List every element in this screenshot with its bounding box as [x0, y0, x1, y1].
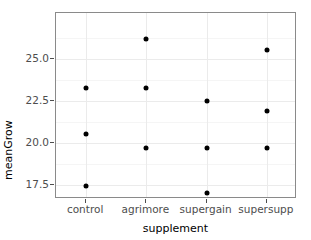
y-axis-ticks: 25.022.520.017.5	[0, 0, 49, 240]
gridline-minor-horizontal	[56, 80, 295, 81]
gridline-major-vertical	[207, 13, 208, 197]
y-tick-label: 25.0	[3, 53, 49, 63]
gridline-minor-horizontal	[56, 164, 295, 165]
x-tick-mark	[85, 199, 86, 203]
scatter-plot: meanGrow 25.022.520.017.5 supplement con…	[0, 0, 311, 240]
x-tick-mark	[266, 199, 267, 203]
gridline-major-vertical	[267, 13, 268, 197]
x-tick-mark	[206, 199, 207, 203]
gridline-major-horizontal	[56, 185, 295, 186]
x-tick-label-supergain: supergain	[180, 203, 232, 215]
data-point	[144, 85, 149, 90]
y-tick-mark	[50, 100, 54, 101]
x-tick-label-supersupp: supersupp	[238, 203, 293, 215]
gridline-minor-horizontal	[56, 38, 295, 39]
data-point	[204, 145, 209, 150]
gridline-major-vertical	[86, 13, 87, 197]
x-tick-label-control: control	[67, 203, 103, 215]
y-tick-mark	[50, 58, 54, 59]
x-axis-title: supplement	[55, 222, 296, 235]
data-point	[204, 98, 209, 103]
gridline-minor-horizontal	[56, 122, 295, 123]
y-tick-label: 20.0	[3, 137, 49, 147]
y-tick-mark	[50, 184, 54, 185]
data-point	[84, 85, 89, 90]
data-point	[144, 36, 149, 41]
data-point	[144, 145, 149, 150]
gridline-major-horizontal	[56, 143, 295, 144]
data-point	[204, 191, 209, 196]
x-tick-label-agrimore: agrimore	[122, 203, 170, 215]
data-point	[84, 183, 89, 188]
data-point	[264, 145, 269, 150]
y-tick-mark	[50, 142, 54, 143]
gridline-major-horizontal	[56, 59, 295, 60]
y-tick-label: 17.5	[3, 179, 49, 189]
data-point	[264, 47, 269, 52]
x-tick-mark	[145, 199, 146, 203]
y-tick-label: 22.5	[3, 95, 49, 105]
data-point	[84, 132, 89, 137]
gridline-major-horizontal	[56, 101, 295, 102]
data-point	[264, 109, 269, 114]
plot-panel	[55, 12, 296, 198]
